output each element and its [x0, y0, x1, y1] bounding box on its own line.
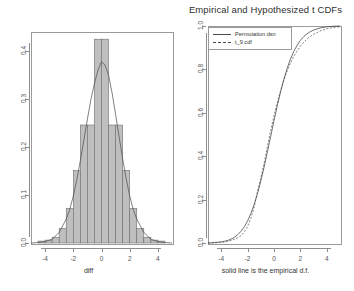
x-tick-mark [221, 248, 222, 252]
x-tick-label: -4 [211, 255, 231, 262]
empirical-cdf-curve [208, 26, 340, 243]
histogram-bar [109, 125, 116, 243]
cdf-legend: Permutation dsn t_9 cdf [208, 27, 292, 50]
y-tick-label: 0.1 [20, 183, 27, 207]
x-tick-label: -2 [238, 255, 258, 262]
y-tick-label: 0.0 [197, 231, 204, 255]
histogram-bar [66, 208, 73, 243]
legend-label-t9: t_9 cdf [235, 39, 252, 45]
legend-entry-t9: t_9 cdf [213, 39, 252, 45]
histogram-bar [73, 171, 80, 243]
histogram-bar [130, 208, 137, 243]
y-tick-label: 0.0 [20, 231, 27, 255]
x-tick-mark [102, 248, 103, 252]
legend-key-solid-icon [213, 34, 231, 35]
histogram-bar [102, 39, 109, 243]
legend-label-permutation: Permutation dsn [235, 31, 276, 37]
x-tick-label: 2 [290, 255, 310, 262]
x-tick-mark [130, 248, 131, 252]
x-tick-label: 0 [264, 255, 284, 262]
x-tick-label: 4 [148, 255, 168, 262]
legend-key-dashed-icon [213, 42, 231, 43]
x-tick-label: 0 [92, 255, 112, 262]
y-tick-label: 0.6 [197, 100, 204, 124]
y-tick-label: 0.4 [20, 39, 27, 63]
legend-entry-permutation: Permutation dsn [213, 31, 276, 37]
y-tick-label: 0.3 [20, 87, 27, 111]
histogram-x-axis-title: diff [0, 267, 177, 274]
x-tick-mark [274, 248, 275, 252]
histogram-bar [87, 125, 94, 243]
x-tick-label: 2 [120, 255, 140, 262]
y-tick-label: 1.0 [197, 14, 204, 38]
y-tick-label: 0.2 [197, 187, 204, 211]
x-tick-mark [45, 248, 46, 252]
x-tick-mark [248, 248, 249, 252]
x-tick-label: -2 [63, 255, 83, 262]
cdf-panel: Empirical and Hypothesized t CDFs 0.00.2… [177, 0, 354, 291]
x-tick-mark [73, 248, 74, 252]
histogram-bar [116, 125, 123, 243]
x-tick-label: 4 [317, 255, 337, 262]
y-tick-label: 0.2 [20, 135, 27, 159]
cdf-y-axis-line [206, 33, 207, 238]
histogram-panel: 0.00.10.20.30.4 -4-2024 diff [0, 0, 177, 291]
histogram-bar [80, 125, 87, 243]
histogram-y-axis-line [29, 43, 30, 237]
x-tick-mark [158, 248, 159, 252]
y-tick-label: 0.4 [197, 144, 204, 168]
x-tick-label: -4 [35, 255, 55, 262]
y-tick-label: 0.8 [197, 57, 204, 81]
x-tick-mark [300, 248, 301, 252]
histogram-bar [123, 171, 130, 243]
hypothesized-cdf-curve [208, 27, 340, 243]
x-tick-mark [327, 248, 328, 252]
cdf-x-axis-title: solid line is the empirical d.f. [177, 267, 354, 274]
